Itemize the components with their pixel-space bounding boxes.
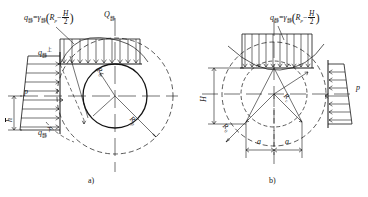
dim-left-label-b: a (257, 138, 261, 146)
pressure-label-a: p (24, 88, 28, 96)
shear-force-label-a: Q静 (104, 11, 115, 22)
panel-a-drawing (0, 0, 184, 197)
radius-outer-label-b: R0 (226, 122, 233, 132)
top-load-arrows-a (62, 39, 139, 63)
radius-inner-label-a: R0 (100, 66, 107, 76)
right-load-arrows-b (325, 70, 351, 122)
depth-label-a: h (5, 122, 9, 131)
diagram-panel-a: q静=γ静(Rp−H2) Q静 q静上 q静下 p h R0 Rp a) (0, 0, 184, 197)
radial-spoke-a (93, 96, 115, 116)
top-load-arrows-b (243, 34, 310, 67)
top-load-box-b (242, 34, 312, 68)
q-upper-label-a: q静上 (38, 48, 52, 59)
wedge-arrow-a (82, 120, 86, 124)
Rc-radius-arrow-b (274, 72, 308, 94)
diagram-panel-b: q静=γ静(Rp−H2) H p Rc R0 a a b) (184, 0, 368, 197)
panel-b-drawing (184, 0, 368, 197)
formula-label-b: q静=γ静(Rp−H2) (270, 10, 320, 26)
height-label-b: H (200, 102, 206, 110)
R0-radius-arrow-a (100, 73, 115, 96)
radius-outer-label-a: Rp (133, 115, 140, 125)
q-lower-label-a: q静下 (38, 128, 52, 139)
radius-inner-label-b: Rc (287, 92, 294, 102)
pressure-label-b: p (356, 84, 360, 92)
formula-leader-a (56, 27, 74, 44)
figure-root: q静=γ静(Rp−H2) Q静 q静上 q静下 p h R0 Rp a) (0, 0, 368, 197)
dim-right-label-b: a (285, 138, 289, 146)
formula-leader-b (278, 26, 284, 40)
caption-a: a) (88, 176, 94, 185)
caption-b: b) (269, 176, 276, 185)
formula-label-a: q静=γ静(Rp−H2) (24, 10, 74, 26)
